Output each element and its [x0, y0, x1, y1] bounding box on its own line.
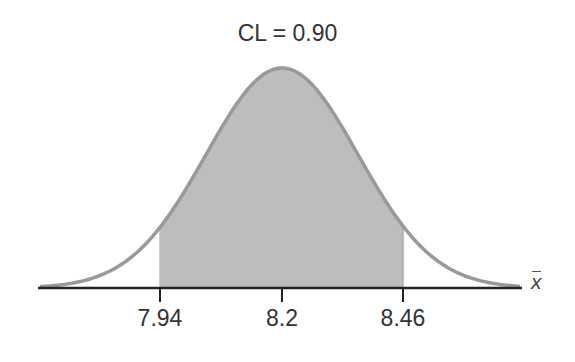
confidence-interval-shaded-area [161, 68, 404, 288]
xbar-overline [532, 271, 541, 272]
chart-title: CL = 0.90 [0, 20, 575, 47]
x-axis-label: x [531, 270, 542, 294]
tick-label-lower: 7.94 [138, 305, 183, 332]
tick-label-upper: 8.46 [381, 305, 426, 332]
tick-label-mean: 8.2 [266, 305, 298, 332]
